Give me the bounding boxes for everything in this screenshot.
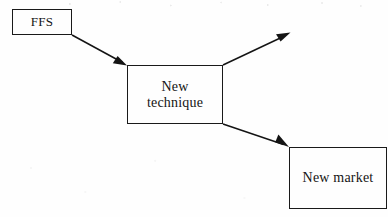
edge-new-technique-to-open <box>223 33 291 66</box>
edge-line <box>223 36 285 65</box>
edge-new-technique-to-new-market <box>223 124 289 147</box>
node-new-technique[interactable]: New technique <box>127 65 223 124</box>
arrowhead-icon <box>275 135 289 148</box>
edge-line <box>223 124 284 145</box>
edge-line <box>72 35 123 63</box>
node-new-technique-label: New technique <box>147 79 203 110</box>
edge-ffs-to-new-technique <box>72 35 127 66</box>
node-new-market-label: New market <box>303 170 374 186</box>
node-ffs-label: FFS <box>31 15 53 30</box>
arrowhead-icon <box>276 33 291 42</box>
node-ffs[interactable]: FFS <box>12 9 72 35</box>
arrowhead-icon <box>113 56 127 66</box>
diagram-canvas: FFS New technique New market <box>0 0 388 217</box>
node-new-market[interactable]: New market <box>289 147 387 209</box>
